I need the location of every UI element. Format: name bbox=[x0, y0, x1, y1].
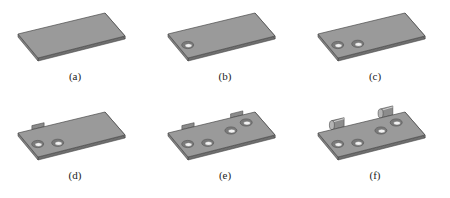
hole-bore bbox=[394, 121, 401, 125]
panel-a: (a) bbox=[0, 0, 150, 99]
panel-label-f: (f) bbox=[300, 169, 450, 181]
plate-e-drawing bbox=[150, 99, 300, 198]
panel-d: (d) bbox=[0, 99, 150, 198]
panel-label-d: (d) bbox=[0, 169, 150, 181]
hole-bore bbox=[55, 142, 62, 146]
hole-bore bbox=[228, 129, 235, 133]
hole-bore bbox=[185, 143, 192, 147]
panel-e: (e) bbox=[150, 99, 300, 198]
hinge-knuckle-end bbox=[378, 109, 383, 118]
panel-label-b: (b) bbox=[150, 70, 300, 82]
panel-b: (b) bbox=[150, 0, 300, 99]
hole-bore bbox=[355, 43, 362, 47]
plate bbox=[168, 111, 275, 160]
plate-b-drawing bbox=[150, 0, 300, 99]
hole-bore bbox=[335, 44, 342, 48]
hole-bore bbox=[205, 142, 212, 146]
panel-c: (c) bbox=[300, 0, 450, 99]
hole-bore bbox=[335, 143, 342, 147]
plate bbox=[318, 106, 425, 160]
plate-f-drawing bbox=[300, 99, 450, 198]
plate-d-drawing bbox=[0, 99, 150, 198]
plate bbox=[318, 13, 425, 61]
plate-a-drawing bbox=[0, 0, 150, 99]
plate bbox=[18, 112, 125, 160]
plate bbox=[168, 13, 275, 61]
plate-c-drawing bbox=[300, 0, 450, 99]
panel-f: (f) bbox=[300, 99, 450, 198]
hole-bore bbox=[244, 121, 251, 125]
hole-bore bbox=[185, 44, 192, 48]
hole-bore bbox=[355, 142, 362, 146]
panel-label-c: (c) bbox=[300, 70, 450, 82]
hinge-knuckle-end bbox=[329, 121, 334, 130]
hole-bore bbox=[35, 143, 42, 147]
panel-label-a: (a) bbox=[0, 70, 150, 82]
panel-label-e: (e) bbox=[150, 169, 300, 181]
hole-bore bbox=[378, 129, 385, 133]
plate bbox=[18, 13, 125, 61]
